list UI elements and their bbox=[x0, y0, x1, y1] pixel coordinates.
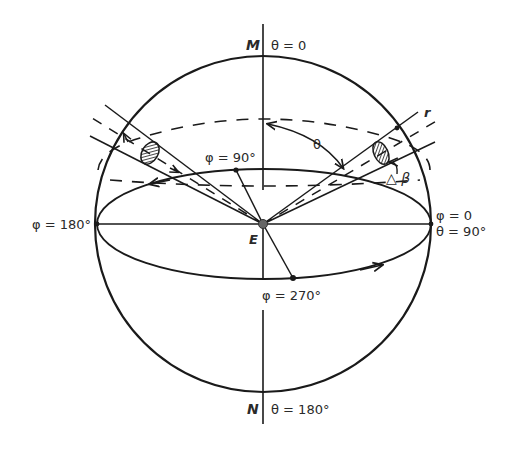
phi-0-point bbox=[429, 222, 434, 227]
right-cone-intersection bbox=[395, 126, 400, 131]
phi-90-point bbox=[233, 167, 238, 172]
label-phi-180: φ = 180° bbox=[32, 217, 91, 232]
right-cone-section bbox=[370, 139, 393, 167]
label-delta-beta: △ β bbox=[386, 170, 410, 186]
celestial-sphere-diagram: M θ = 0 N θ = 180° E φ = 180° φ = 0 θ = … bbox=[0, 0, 505, 451]
label-theta-top: θ = 0 bbox=[271, 38, 306, 53]
phi-270-point bbox=[290, 275, 296, 281]
label-phi-270: φ = 270° bbox=[262, 288, 321, 303]
label-theta-angle: θ bbox=[313, 137, 321, 152]
label-center-e: E bbox=[249, 232, 258, 247]
label-pole-bottom: N bbox=[247, 401, 259, 417]
center-point-e bbox=[259, 220, 268, 229]
left-cone-section bbox=[137, 139, 163, 168]
label-theta-90: θ = 90° bbox=[436, 224, 486, 239]
phi-90-line bbox=[236, 170, 263, 224]
label-radius-r: r bbox=[424, 105, 432, 120]
theta-angle-arc bbox=[268, 124, 343, 168]
label-phi-0: φ = 0 bbox=[436, 208, 472, 223]
label-phi-90: φ = 90° bbox=[205, 150, 256, 165]
phi-270-line bbox=[263, 224, 293, 278]
label-pole-top: M bbox=[246, 37, 260, 53]
label-theta-bottom: θ = 180° bbox=[271, 402, 329, 417]
phi-180-point bbox=[95, 222, 100, 227]
